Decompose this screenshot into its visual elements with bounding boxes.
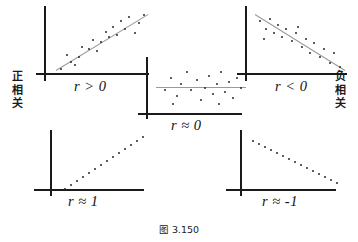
- y-axis: [50, 130, 52, 196]
- data-point: [281, 36, 283, 38]
- data-point: [136, 140, 138, 142]
- data-point: [224, 91, 226, 93]
- data-point: [297, 26, 299, 28]
- x-axis: [138, 113, 242, 115]
- data-point: [200, 99, 202, 101]
- y-axis: [44, 6, 46, 81]
- data-point: [186, 71, 188, 73]
- data-point: [170, 77, 172, 79]
- data-point: [82, 176, 84, 178]
- data-point: [124, 148, 126, 150]
- data-point: [329, 62, 331, 64]
- data-point: [208, 75, 210, 77]
- y-axis: [245, 6, 247, 81]
- data-point: [118, 152, 120, 154]
- panel-perfect-positive-correlation: r ≈ 1: [50, 130, 150, 215]
- panel-label: r ≈ 1: [68, 193, 99, 210]
- panel-near-zero-correlation: r ≈ 0: [146, 57, 246, 137]
- data-point: [78, 56, 80, 58]
- data-point: [106, 160, 108, 162]
- data-point: [236, 77, 238, 79]
- data-point: [190, 89, 192, 91]
- data-point: [301, 46, 303, 48]
- data-point: [240, 87, 242, 89]
- data-point: [92, 39, 94, 41]
- data-point: [70, 184, 72, 186]
- data-point: [112, 156, 114, 158]
- data-point: [172, 103, 174, 105]
- data-point: [252, 140, 254, 142]
- data-point: [306, 167, 308, 169]
- data-point: [285, 28, 287, 30]
- data-point: [232, 97, 234, 99]
- data-point: [105, 31, 107, 33]
- data-point: [180, 83, 182, 85]
- side-label-char: 正: [10, 70, 25, 84]
- figure-caption: 图 3.150: [0, 222, 358, 236]
- correlation-figure: 正 相 关 负 相 关 r > 0 r ≈ 0 r < 0 r ≈ 1: [0, 0, 358, 242]
- data-point: [295, 32, 297, 34]
- y-axis: [146, 57, 148, 119]
- data-point: [264, 146, 266, 148]
- data-point: [277, 24, 279, 26]
- data-point: [309, 52, 311, 54]
- data-point: [218, 103, 220, 105]
- data-point: [116, 34, 118, 36]
- data-point: [265, 28, 267, 30]
- x-axis: [237, 73, 347, 75]
- data-point: [288, 158, 290, 160]
- data-point: [70, 61, 72, 63]
- data-point: [124, 28, 126, 30]
- data-point: [273, 32, 275, 34]
- x-axis: [226, 189, 336, 191]
- x-axis: [36, 73, 149, 75]
- data-point: [318, 173, 320, 175]
- panel-perfect-negative-correlation: r ≈ -1: [240, 130, 340, 215]
- data-point: [176, 95, 178, 97]
- panel-label: r < 0: [275, 78, 307, 95]
- data-point: [96, 50, 98, 52]
- data-point: [291, 40, 293, 42]
- data-point: [270, 149, 272, 151]
- data-point: [142, 136, 144, 138]
- data-point: [66, 54, 68, 56]
- data-point: [324, 176, 326, 178]
- data-point: [112, 26, 114, 28]
- data-point: [81, 46, 83, 48]
- side-label-char: 关: [10, 97, 25, 111]
- data-point: [164, 89, 166, 91]
- data-point: [60, 68, 62, 70]
- data-point: [216, 83, 218, 85]
- data-point: [319, 56, 321, 58]
- data-point: [282, 155, 284, 157]
- data-point: [323, 48, 325, 50]
- data-point: [76, 180, 78, 182]
- data-point: [138, 22, 140, 24]
- data-point: [228, 81, 230, 83]
- positive-correlation-side-label: 正 相 关: [10, 70, 25, 111]
- data-point: [269, 18, 271, 20]
- data-point: [196, 79, 198, 81]
- data-point: [130, 144, 132, 146]
- data-point: [330, 179, 332, 181]
- panel-label: r > 0: [74, 78, 106, 95]
- data-point: [100, 164, 102, 166]
- data-point: [94, 168, 96, 170]
- data-point: [300, 164, 302, 166]
- y-axis: [240, 130, 242, 196]
- data-point: [259, 20, 261, 22]
- data-point: [263, 38, 265, 40]
- data-point: [294, 161, 296, 163]
- data-point: [305, 38, 307, 40]
- data-point: [258, 143, 260, 145]
- data-point: [120, 20, 122, 22]
- panel-positive-correlation: r > 0: [44, 6, 149, 101]
- data-point: [134, 32, 136, 34]
- side-label-char: 相: [10, 84, 25, 98]
- panel-label: r ≈ 0: [171, 117, 202, 134]
- data-point: [276, 152, 278, 154]
- data-point: [204, 87, 206, 89]
- data-point: [312, 170, 314, 172]
- panel-negative-correlation: r < 0: [245, 6, 350, 101]
- x-axis: [34, 189, 144, 191]
